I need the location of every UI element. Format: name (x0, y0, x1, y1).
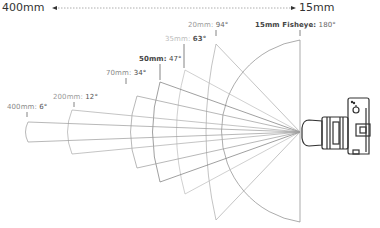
range-right-label: 15mm (299, 1, 334, 14)
focal-text: 35mm: (165, 35, 190, 43)
focal-text: 15mm Fisheye: (255, 21, 316, 29)
fov-400mm (26, 122, 301, 142)
angle-text: 6° (39, 103, 47, 111)
angle-text: 94° (216, 21, 229, 29)
lens-label-20mm: 20mm: 94° (188, 21, 228, 29)
focal-text: 50mm: (139, 55, 167, 63)
lens-label-70mm: 70mm: 34° (106, 69, 146, 77)
angle-text: 47° (169, 55, 182, 63)
fov-70mm (131, 96, 301, 168)
angle-text: 63° (193, 35, 207, 43)
angle-text: 180° (319, 21, 336, 29)
camera-with-zoom-lens-icon (302, 98, 370, 154)
focal-text: 20mm: (188, 21, 213, 29)
fov-20mm (206, 44, 300, 220)
fov-35mm (177, 70, 301, 194)
lens-label-200mm: 200mm: 12° (53, 93, 98, 101)
focal-text: 200mm: (53, 93, 83, 101)
lens-label-50mm: 50mm: 47° (139, 55, 182, 63)
lens-label-400mm: 400mm: 6° (7, 103, 47, 111)
range-left-label: 400mm (2, 1, 44, 14)
angle-text: 12° (85, 93, 98, 101)
angle-text: 34° (134, 69, 147, 77)
lens-label-15mm-fisheye: 15mm Fisheye: 180° (255, 21, 336, 29)
focal-text: 400mm: (7, 103, 37, 111)
focal-range-arrow (52, 6, 296, 10)
focal-text: 70mm: (106, 69, 131, 77)
lens-label-35mm: 35mm: 63° (165, 35, 206, 43)
fov-50mm (153, 82, 301, 182)
label-leaders (27, 30, 300, 117)
fov-200mm (68, 110, 301, 154)
